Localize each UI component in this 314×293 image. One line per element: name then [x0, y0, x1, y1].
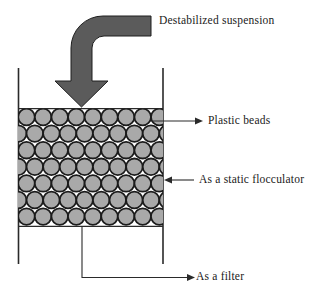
- plastic-bead: [85, 142, 102, 159]
- plastic-bead: [159, 159, 176, 176]
- plastic-bead: [51, 142, 68, 159]
- plastic-bead: [118, 142, 135, 159]
- plastic-bead: [159, 192, 176, 209]
- plastic-beads-arrowhead-icon: [195, 118, 203, 125]
- plastic-bead: [27, 125, 44, 142]
- plastic-bead: [159, 125, 176, 142]
- plastic-bead: [68, 142, 85, 159]
- plastic-bead: [110, 125, 127, 142]
- plastic-bead: [134, 208, 151, 225]
- plastic-bead: [93, 159, 110, 176]
- plastic-bead: [118, 175, 135, 192]
- filter-arrowhead-icon: [187, 274, 195, 281]
- plastic-bead: [118, 109, 135, 126]
- plastic-bead: [151, 175, 168, 192]
- plastic-bead: [27, 159, 44, 176]
- plastic-bead: [126, 192, 143, 209]
- plastic-bead: [101, 142, 118, 159]
- plastic-bead: [68, 175, 85, 192]
- plastic-bead: [93, 125, 110, 142]
- plastic-bead: [35, 175, 52, 192]
- plastic-bead: [76, 159, 93, 176]
- plastic-beads-label: Plastic beads: [208, 114, 270, 127]
- plastic-bead: [151, 142, 168, 159]
- plastic-bead: [126, 125, 143, 142]
- plastic-bead: [51, 175, 68, 192]
- plastic-bead: [143, 159, 160, 176]
- flocculator-arrowhead-icon: [164, 177, 172, 184]
- plastic-bead: [134, 109, 151, 126]
- plastic-bead: [143, 192, 160, 209]
- plastic-bead: [93, 192, 110, 209]
- plastic-bead: [101, 109, 118, 126]
- plastic-bead: [10, 192, 27, 209]
- plastic-bead: [101, 208, 118, 225]
- plastic-bead: [18, 109, 35, 126]
- flocculator-diagram: Destabilized suspension Plastic beads As…: [0, 0, 314, 293]
- plastic-bead: [134, 142, 151, 159]
- plastic-bead: [18, 175, 35, 192]
- plastic-bead: [85, 175, 102, 192]
- plastic-bead: [60, 125, 77, 142]
- plastic-bead: [51, 208, 68, 225]
- static-flocculator-label: As a static flocculator: [199, 173, 304, 186]
- filter-label: As a filter: [196, 270, 244, 283]
- plastic-bead: [85, 208, 102, 225]
- plastic-bead: [110, 192, 127, 209]
- plastic-bead: [143, 125, 160, 142]
- plastic-bead: [35, 208, 52, 225]
- bead-grid: [10, 109, 176, 225]
- plastic-bead: [35, 142, 52, 159]
- plastic-bead: [43, 159, 60, 176]
- plastic-bead: [151, 208, 168, 225]
- plastic-bead: [60, 159, 77, 176]
- filter-pointer-line: [82, 227, 188, 278]
- plastic-bead: [85, 109, 102, 126]
- plastic-bead: [10, 159, 27, 176]
- plastic-bead: [60, 192, 77, 209]
- plastic-bead: [110, 159, 127, 176]
- plastic-bead: [76, 125, 93, 142]
- diagram-canvas: [0, 0, 314, 293]
- plastic-bead: [35, 109, 52, 126]
- plastic-bead: [68, 109, 85, 126]
- plastic-bead: [43, 192, 60, 209]
- plastic-bead: [27, 192, 44, 209]
- plastic-bead: [18, 208, 35, 225]
- plastic-bead: [51, 109, 68, 126]
- plastic-bead: [126, 159, 143, 176]
- plastic-bead: [43, 125, 60, 142]
- plastic-bead: [118, 208, 135, 225]
- plastic-bead: [10, 125, 27, 142]
- destabilized-suspension-label: Destabilized suspension: [159, 14, 274, 27]
- plastic-bead: [101, 175, 118, 192]
- plastic-bead: [134, 175, 151, 192]
- plastic-bead: [151, 109, 168, 126]
- plastic-bead: [76, 192, 93, 209]
- flow-down-arrow: [55, 16, 151, 107]
- plastic-bead: [18, 142, 35, 159]
- plastic-bead: [68, 208, 85, 225]
